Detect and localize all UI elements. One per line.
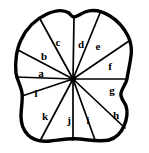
sector-label-g: g	[109, 85, 115, 96]
sector-label-a: a	[38, 68, 44, 79]
sector-label-j: j	[67, 115, 71, 126]
sector-label-k: k	[42, 111, 48, 122]
sector-label-i: i	[86, 115, 89, 126]
sector-label-d: d	[78, 39, 84, 50]
sector-label-e: e	[96, 41, 101, 52]
spoke-top-vertical	[73, 17, 74, 79]
sector-label-l: l	[34, 88, 37, 99]
center-hub-point	[70, 76, 76, 82]
sector-label-c: c	[56, 37, 61, 48]
sector-label-b: b	[41, 51, 47, 62]
sector-label-h: h	[113, 110, 119, 121]
figure-canvas	[0, 0, 149, 153]
sector-partition-figure: abcdefghijkl	[0, 0, 149, 153]
sector-label-f: f	[108, 61, 112, 72]
